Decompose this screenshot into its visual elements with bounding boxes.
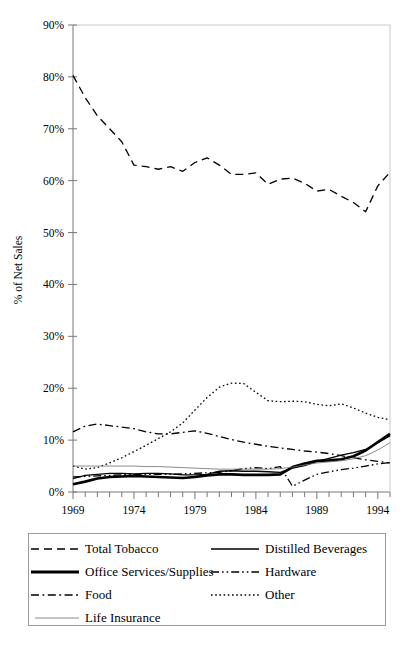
- y-tick-label: 10%: [43, 434, 65, 446]
- legend-line-sample: [29, 588, 81, 602]
- legend-line-sample: [209, 565, 261, 579]
- legend-item-hardware[interactable]: Hardware: [205, 560, 387, 583]
- y-tick-label: 50%: [43, 227, 65, 239]
- legend-item-total-tobacco[interactable]: Total Tobacco: [29, 537, 205, 560]
- series-line-total-tobacco: [73, 75, 390, 211]
- legend-item-label: Food: [85, 588, 112, 602]
- x-tick-label: 1974: [122, 504, 145, 516]
- y-tick-label: 60%: [43, 175, 65, 187]
- y-tick-label: 90%: [43, 19, 65, 31]
- x-tick-label: 1969: [62, 504, 85, 516]
- legend-item-label: Distilled Beverages: [265, 542, 367, 556]
- legend-item-empty: [205, 606, 387, 629]
- y-tick-label: 70%: [43, 123, 65, 135]
- axis-frame: [73, 25, 390, 492]
- legend-item-life-insurance[interactable]: Life Insurance: [29, 606, 205, 629]
- y-axis-ticks: 0%10%20%30%40%50%60%70%80%90%: [43, 19, 77, 498]
- y-tick-label: 20%: [43, 382, 65, 394]
- legend-item-label: Other: [265, 588, 295, 602]
- legend-item-distilled-beverages[interactable]: Distilled Beverages: [205, 537, 387, 560]
- x-tick-label: 1984: [244, 504, 267, 516]
- legend-line-sample: [209, 542, 261, 556]
- legend-item-food[interactable]: Food: [29, 583, 205, 606]
- x-tick-label: 1989: [305, 504, 328, 516]
- legend-item-label: Life Insurance: [85, 611, 160, 625]
- chart-figure: 0%10%20%30%40%50%60%70%80%90% 1969197419…: [0, 0, 418, 645]
- legend-item-label: Office Services/Supplies: [85, 565, 214, 579]
- y-tick-label: 30%: [43, 330, 65, 342]
- plot-area: 0%10%20%30%40%50%60%70%80%90% 1969197419…: [0, 0, 418, 520]
- legend-line-sample: [29, 565, 81, 579]
- series-line-food: [73, 424, 390, 463]
- legend-item-other[interactable]: Other: [205, 583, 387, 606]
- legend-item-label: Total Tobacco: [85, 542, 158, 556]
- line-chart-svg: 0%10%20%30%40%50%60%70%80%90% 1969197419…: [0, 0, 418, 520]
- series-line-office-services-supplies: [73, 434, 390, 484]
- legend-line-sample: [29, 611, 81, 625]
- x-tick-label: 1994: [366, 504, 389, 516]
- legend: Total TobaccoDistilled BeveragesOffice S…: [28, 533, 386, 626]
- y-tick-label: 80%: [43, 71, 65, 83]
- legend-item-office-services-supplies[interactable]: Office Services/Supplies: [29, 560, 205, 583]
- y-tick-label: 40%: [43, 278, 65, 290]
- legend-line-sample: [209, 588, 261, 602]
- legend-line-sample: [29, 542, 81, 556]
- x-axis-ticks: 196919741979198419891994: [62, 492, 391, 516]
- x-tick-label: 1979: [183, 504, 206, 516]
- y-tick-label: 0%: [49, 486, 65, 498]
- data-series-group: [73, 75, 390, 486]
- y-axis-title: % of Net Sales: [12, 235, 24, 304]
- series-line-distilled-beverages: [73, 436, 390, 479]
- legend-item-label: Hardware: [265, 565, 316, 579]
- legend-grid: Total TobaccoDistilled BeveragesOffice S…: [29, 534, 385, 625]
